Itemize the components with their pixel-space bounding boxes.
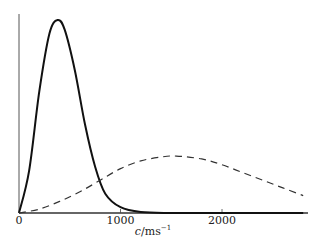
x-axis-label: c/ms−1 xyxy=(135,224,171,238)
solid-curve xyxy=(19,20,303,213)
x-tick-labels: 010002000 xyxy=(16,214,237,227)
x-tick-label: 2000 xyxy=(208,214,236,227)
x-tick-label: 0 xyxy=(16,214,23,227)
speed-distribution-chart: 010002000 c/ms−1 xyxy=(0,0,318,252)
x-tick-label: 1000 xyxy=(107,214,135,227)
dashed-curve xyxy=(19,156,303,213)
